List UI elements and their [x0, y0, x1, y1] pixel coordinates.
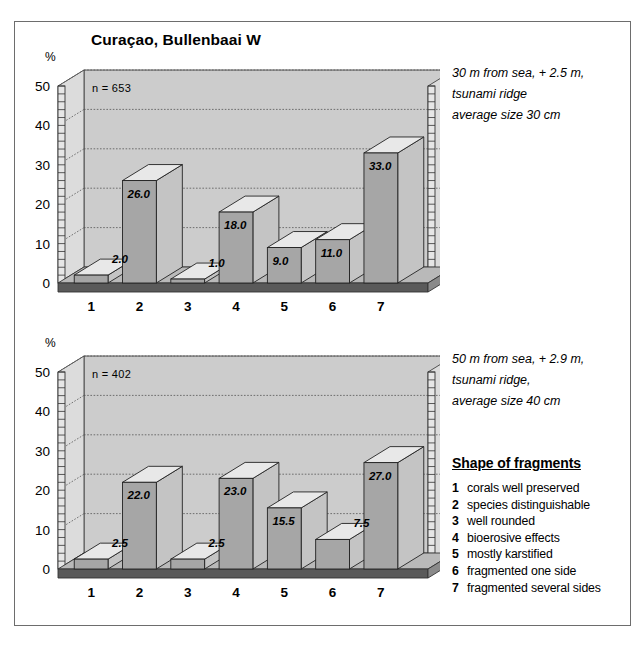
bar-value-label: 2.5	[209, 537, 225, 549]
x-axis-tick-label: 5	[271, 299, 297, 314]
legend-item-number: 5	[452, 546, 467, 563]
legend-item-label: well rounded	[467, 513, 535, 530]
y-axis-tick-label: 20	[24, 197, 50, 212]
legend-item: 4bioerosive effects	[452, 530, 630, 547]
bar-value-label: 9.0	[272, 255, 288, 267]
x-axis-tick-label: 1	[78, 585, 104, 600]
bar-value-label: 33.0	[369, 160, 391, 172]
bar-front-face	[74, 275, 108, 283]
bar-front-face	[316, 539, 350, 569]
y-axis-tick-label: 30	[24, 443, 50, 458]
legend-title: Shape of fragments	[452, 455, 630, 471]
bar-side-face	[398, 447, 424, 569]
x-axis-tick-label: 7	[368, 299, 394, 314]
y-axis-tick-label: 10	[24, 236, 50, 251]
y-axis-tick-label: 0	[24, 562, 50, 577]
bar-chart-bottom: 0102030405012345672.522.02.523.015.57.52…	[20, 348, 440, 603]
legend-item-label: mostly karstified	[467, 546, 553, 563]
x-axis-tick-label: 7	[368, 585, 394, 600]
bar-front-face	[171, 559, 205, 569]
y-axis-tick-label: 40	[24, 404, 50, 419]
bar-value-label: 22.0	[128, 489, 150, 501]
bar-chart-top: 0102030405012345672.026.01.018.09.011.03…	[20, 62, 440, 317]
chart-title-top: Curaçao, Bullenbaai W	[91, 31, 261, 49]
bar-front-face	[364, 153, 398, 283]
bar-side-face	[398, 137, 424, 283]
x-axis-tick-label: 4	[223, 585, 249, 600]
y-axis-tick-label: 10	[24, 522, 50, 537]
x-axis-tick-label: 6	[320, 585, 346, 600]
bar-value-label: 27.0	[369, 470, 391, 482]
y-axis-tick-label: 50	[24, 79, 50, 94]
legend-item-number: 4	[452, 530, 467, 547]
x-axis-tick-label: 3	[175, 585, 201, 600]
bar-front-face	[74, 559, 108, 569]
legend-item: 6fragmented one side	[452, 563, 630, 580]
x-axis-tick-label: 1	[78, 299, 104, 314]
x-axis-tick-label: 5	[271, 585, 297, 600]
y-axis-tick-label: 40	[24, 118, 50, 133]
annotation-line: average size 40 cm	[452, 391, 584, 412]
legend-item-number: 3	[452, 513, 467, 530]
legend-item-label: species distinguishable	[467, 497, 590, 514]
sample-size-top: n = 653	[92, 82, 131, 94]
bar-value-label: 18.0	[224, 219, 246, 231]
legend-item-label: fragmented one side	[467, 563, 576, 580]
bar-value-label: 7.5	[353, 517, 369, 529]
bar-value-label: 2.0	[112, 253, 128, 265]
legend-item: 7fragmented several sides	[452, 580, 630, 597]
bar-side-face	[156, 466, 182, 569]
bar-value-label: 11.0	[321, 247, 343, 259]
bar-value-label: 1.0	[209, 257, 225, 269]
x-axis-tick-label: 2	[126, 299, 152, 314]
annotation-line: 50 m from sea, + 2.9 m,	[452, 349, 584, 370]
legend-item-label: bioerosive effects	[467, 530, 560, 547]
legend-list: 1corals well preserved2species distingui…	[452, 480, 630, 596]
legend-item: 3well rounded	[452, 513, 630, 530]
legend-item-label: corals well preserved	[467, 480, 579, 497]
bar-value-label: 23.0	[224, 485, 246, 497]
annotation-line: 30 m from sea, + 2.5 m,	[452, 63, 584, 84]
sample-size-bottom: n = 402	[92, 368, 131, 380]
y-axis-tick-label: 30	[24, 157, 50, 172]
y-axis-tick-label: 20	[24, 483, 50, 498]
legend-item-number: 6	[452, 563, 467, 580]
x-axis-tick-label: 2	[126, 585, 152, 600]
x-axis-tick-label: 4	[223, 299, 249, 314]
bar-value-label: 2.5	[112, 537, 128, 549]
x-axis-tick-label: 6	[320, 299, 346, 314]
legend-item: 1corals well preserved	[452, 480, 630, 497]
legend-item-number: 1	[452, 480, 467, 497]
legend: Shape of fragments 1corals well preserve…	[452, 455, 630, 596]
legend-item: 2species distinguishable	[452, 497, 630, 514]
bar-side-face	[156, 165, 182, 283]
annotation-line: tsunami ridge	[452, 84, 584, 105]
legend-item: 5mostly karstified	[452, 546, 630, 563]
chart-canvas-0	[20, 62, 440, 317]
annotation-line: average size 30 cm	[452, 105, 584, 126]
legend-item-number: 7	[452, 580, 467, 597]
bar-value-label: 15.5	[272, 515, 294, 527]
annotation-top: 30 m from sea, + 2.5 m, tsunami ridge av…	[452, 63, 584, 126]
figure-root: Curaçao, Bullenbaai W % 0102030405012345…	[0, 0, 643, 648]
legend-item-number: 2	[452, 497, 467, 514]
x-axis-tick-label: 3	[175, 299, 201, 314]
legend-item-label: fragmented several sides	[467, 580, 601, 597]
annotation-bottom: 50 m from sea, + 2.9 m, tsunami ridge, a…	[452, 349, 584, 412]
annotation-line: tsunami ridge,	[452, 370, 584, 391]
y-axis-tick-label: 0	[24, 276, 50, 291]
y-axis-tick-label: 50	[24, 365, 50, 380]
bar-value-label: 26.0	[128, 188, 150, 200]
bar-front-face	[171, 279, 205, 283]
